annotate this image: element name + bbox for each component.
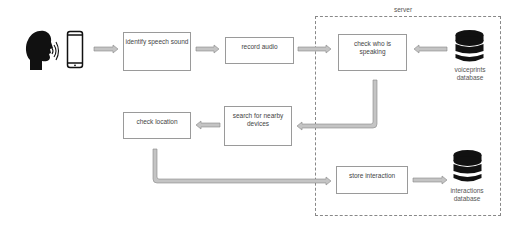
- node-identify-speech-sound: identify speech sound: [123, 32, 191, 71]
- db-label-line2: database: [443, 195, 491, 203]
- arrow-search-to-check-location: [196, 121, 220, 129]
- arrow-store-to-interactions: [413, 176, 447, 184]
- node-check-who-is-speaking: check who is speaking: [338, 34, 407, 71]
- database-icon: [456, 30, 484, 62]
- node-label: search for nearby devices: [233, 112, 284, 127]
- db-label-line2: database: [446, 74, 494, 82]
- interactions-db-label: interactions database: [443, 187, 491, 203]
- node-label: store interaction: [349, 172, 395, 179]
- arrow-voiceprints-to-check-who: [414, 45, 447, 53]
- node-search-nearby-devices: search for nearby devices: [224, 106, 292, 146]
- node-store-interaction: store interaction: [336, 166, 408, 194]
- voiceprints-db-label: voiceprints database: [446, 66, 494, 82]
- arrow-identify-to-record: [196, 45, 219, 53]
- arrow-check-who-to-search: [297, 80, 377, 130]
- db-label-line1: interactions: [443, 187, 491, 195]
- arrow-device-to-identify: [94, 45, 118, 53]
- db-label-line1: voiceprints: [446, 66, 494, 74]
- node-check-location: check location: [123, 112, 191, 139]
- node-label: check who is speaking: [354, 40, 391, 55]
- arrow-check-location-to-store: [153, 149, 331, 185]
- node-label: check location: [136, 118, 177, 125]
- node-label: identify speech sound: [126, 38, 189, 45]
- speaking-head-icon: [26, 31, 59, 70]
- smartphone-icon: [68, 32, 83, 68]
- node-record-audio: record audio: [225, 37, 294, 64]
- database-icon: [454, 150, 482, 182]
- node-label: record audio: [241, 43, 277, 50]
- arrow-record-to-check-who: [298, 45, 331, 53]
